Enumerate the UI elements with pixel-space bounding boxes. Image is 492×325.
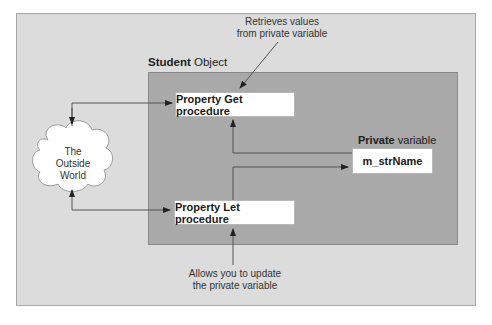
property-get-box: Property Get procedure	[175, 92, 295, 117]
private-variable-box: m_strName	[352, 148, 433, 174]
pointer-get-annotation	[240, 42, 278, 88]
property-let-box: Property Let procedure	[174, 200, 295, 225]
arrow-private-to-get	[233, 120, 352, 153]
outside-world-line-3: World	[44, 170, 102, 182]
outside-world-line-2: Outside	[44, 158, 102, 170]
outside-world-label: The Outside World	[44, 146, 102, 182]
private-variable-label-rest: variable	[395, 134, 437, 146]
private-variable-label-bold: Private	[358, 134, 395, 146]
outside-world-line-1: The	[44, 146, 102, 158]
private-variable-label: Private variable	[358, 134, 436, 146]
arrow-let-to-private	[233, 167, 348, 200]
